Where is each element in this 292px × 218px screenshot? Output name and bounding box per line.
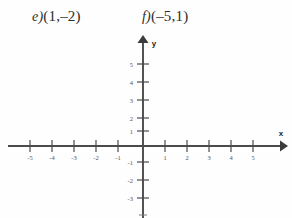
problem-tag-f: f) — [142, 9, 151, 24]
x-tick-label: 2 — [185, 154, 188, 161]
x-tick-label: 4 — [229, 154, 233, 161]
y-tick-label: -2 — [128, 177, 133, 184]
problem-tag-e: e) — [32, 9, 43, 24]
x-axis-arrowhead-icon — [280, 141, 288, 152]
y-tick-label: -3 — [128, 195, 133, 202]
x-axis-tick-labels: -5 -4 -3 -2 -1 1 2 3 4 5 — [27, 154, 254, 161]
y-tick-label: 2 — [130, 115, 133, 122]
coordinate-plane: -5 -4 -3 -2 -1 1 2 3 4 5 5 4 3 2 1 -1 -2… — [0, 30, 292, 218]
x-tick-label: 1 — [163, 154, 166, 161]
x-tick-label: -2 — [93, 154, 98, 161]
x-tick-label: 5 — [251, 154, 254, 161]
x-tick-label: -1 — [115, 154, 120, 161]
y-tick-label: 5 — [130, 61, 133, 68]
problem-item-e: e)(1,–2) — [32, 8, 81, 25]
y-axis-tick-labels: 5 4 3 2 1 -1 -2 -3 — [128, 61, 134, 202]
y-axis-arrowhead-icon — [138, 35, 149, 43]
problem-coords-e: (1,–2) — [43, 8, 80, 24]
x-tick-label: -4 — [49, 154, 55, 161]
y-axis-label: y — [152, 39, 157, 48]
problem-coords-f: (–5,1) — [151, 8, 188, 24]
y-tick-label: 1 — [130, 128, 133, 135]
problem-labels-row: e)(1,–2) f)(–5,1) — [0, 8, 292, 30]
y-tick-label: -1 — [128, 159, 133, 166]
worksheet-page: e)(1,–2) f)(–5,1) — [0, 0, 292, 218]
problem-item-f: f)(–5,1) — [142, 8, 188, 25]
y-tick-label: 4 — [130, 79, 134, 86]
x-tick-label: -3 — [71, 154, 76, 161]
y-tick-label: 3 — [130, 97, 133, 104]
x-axis-label: x — [279, 129, 284, 138]
x-tick-label: 3 — [207, 154, 210, 161]
x-tick-label: -5 — [27, 154, 32, 161]
